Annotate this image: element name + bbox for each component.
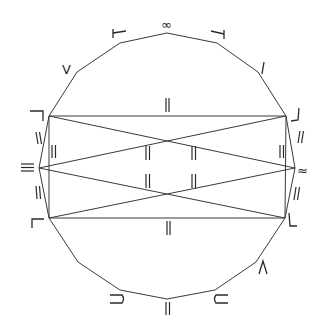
inscribed-rectangle (49, 116, 286, 218)
mark-corner-bl (32, 219, 44, 228)
mark-mid-right: ≈ (297, 163, 308, 178)
mark-inner-right (280, 145, 284, 158)
mark-center-lower-left (146, 174, 150, 188)
mark-corner-br (289, 213, 297, 226)
mark-corner-tl (30, 111, 43, 121)
mark-mid-left (21, 164, 34, 171)
mark-rect-top (166, 98, 169, 112)
mark-center-upper-right (192, 146, 196, 160)
geometry-diagram: ∞ V ≈ (0, 0, 333, 332)
mark-bottom (166, 302, 170, 315)
mark-right-lower-edge (259, 261, 267, 274)
mark-left-side-upper (36, 132, 42, 144)
mark-bottom-left-edge (110, 295, 124, 303)
mark-top-left-edge (113, 29, 126, 38)
mark-corner-tr (291, 108, 299, 121)
mark-left-upper-edge: V (62, 62, 71, 77)
mark-right-side-lower (294, 187, 300, 200)
mark-center-upper-left (146, 146, 150, 160)
diagonal-br-to-midleft (39, 168, 285, 218)
outer-polygon (39, 33, 295, 299)
mark-center-lower-right (192, 174, 196, 188)
mark-right-upper-edge (262, 62, 264, 74)
mark-top-right-edge (211, 30, 224, 39)
mark-top: ∞ (161, 17, 172, 32)
mark-rect-bottom (167, 221, 170, 235)
mark-bottom-right-edge (215, 295, 229, 303)
diagonal-tr-to-midleft (39, 116, 286, 168)
mark-inner-left (52, 145, 56, 158)
mark-right-side-upper (298, 131, 304, 143)
diagonal-tl-to-midright (49, 116, 295, 168)
mark-left-side-lower (36, 186, 41, 199)
diagonal-bl-to-midright (49, 168, 295, 218)
